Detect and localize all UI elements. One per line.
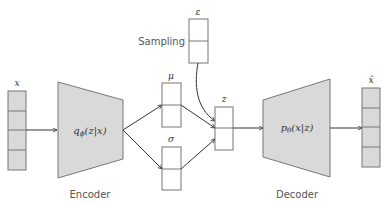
decoder-block: pθ(x|z) Decoder xyxy=(263,79,330,200)
arrow-encoder-to-sigma xyxy=(123,130,162,169)
epsilon-label: ε xyxy=(196,7,201,17)
arrow-epsilon-to-z xyxy=(196,63,215,121)
vae-diagram: x qϕ(z|x) Encoder μ σ ε Sampling z xyxy=(0,0,384,204)
sigma-label: σ xyxy=(168,134,175,144)
arrow-encoder-to-mu xyxy=(123,105,162,130)
output-label: x̂ xyxy=(368,75,373,85)
encoder-caption: Encoder xyxy=(70,189,112,200)
mu-label: μ xyxy=(168,71,174,81)
sigma-vector: σ xyxy=(162,134,181,190)
latent-vector: z xyxy=(215,94,233,150)
epsilon-vector: ε Sampling xyxy=(138,7,208,63)
decoder-caption: Decoder xyxy=(276,189,319,200)
input-label: x xyxy=(14,78,19,88)
latent-label: z xyxy=(221,94,227,104)
sampling-caption: Sampling xyxy=(138,36,185,47)
output-vector: x̂ xyxy=(362,75,380,167)
arrow-sigma-to-z xyxy=(181,139,215,169)
mu-vector: μ xyxy=(162,71,181,127)
encoder-block: qϕ(z|x) Encoder xyxy=(58,82,123,200)
input-vector: x xyxy=(8,78,26,170)
